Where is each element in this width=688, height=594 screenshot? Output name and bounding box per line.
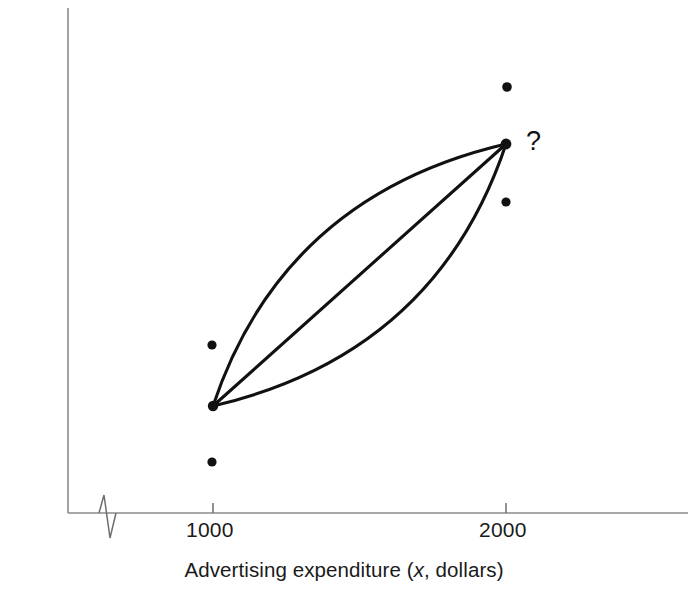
data-point-anchor-right [501,139,512,150]
data-point-anchor-left [208,401,218,411]
x-tick-label-2000: 2000 [479,518,527,542]
x-axis-title: Advertising expenditure (x, dollars) [0,558,688,582]
x-axis-title-prefix: Advertising expenditure ( [184,558,413,581]
question-mark-annotation: ? [526,128,541,155]
curve-linear [213,144,506,406]
scatter-plot-figure: 1000 2000 ? Advertising expenditure (x, … [0,0,688,594]
x-tick-label-1000: 1000 [186,518,234,542]
data-point-left-lower [207,457,216,466]
data-point-left-upper [207,340,216,349]
data-point-right-lower [501,197,510,206]
data-point-right-upper [502,82,512,92]
x-axis-title-suffix: , dollars) [424,558,504,581]
x-axis-title-variable: x [414,558,424,581]
plot-canvas [0,0,688,594]
axis-break-zigzag [99,495,116,538]
